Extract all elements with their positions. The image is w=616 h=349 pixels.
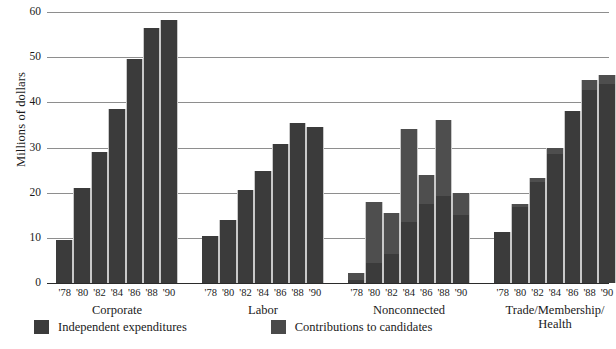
x-axis-tick-90: '90 (160, 288, 177, 299)
bars-container (56, 12, 178, 283)
legend-item-independent-expenditures[interactable]: Independent expenditures (34, 320, 187, 334)
bar-segment-contributions-to-candidates (565, 111, 580, 283)
bar-group-corporate: '78'80'82'84'86'88'90Corporate (56, 12, 178, 283)
plot-area: 0102030405060'78'80'82'84'86'88'90Corpor… (47, 12, 609, 283)
bar-segment-contributions-to-candidates (366, 263, 381, 283)
bar-group-labor: '78'80'82'84'86'88'90Labor (202, 12, 324, 283)
bars-container (202, 12, 324, 283)
bar[interactable] (91, 152, 108, 283)
bar-segment-contributions-to-candidates (599, 84, 614, 283)
bar-segment-contributions-to-candidates (453, 215, 468, 283)
x-axis-tick-84: '84 (254, 288, 271, 299)
bar-segment-contributions-to-candidates (582, 90, 597, 283)
y-axis-tick-40: 40 (7, 96, 41, 108)
y-axis-tick-10: 10 (7, 232, 41, 244)
bar[interactable] (126, 59, 143, 283)
bar-segment-contributions-to-candidates (290, 123, 305, 283)
bar[interactable] (365, 202, 382, 283)
bar[interactable] (219, 220, 236, 283)
x-axis-tick-78: '78 (202, 288, 219, 299)
group-label: Labor (202, 303, 324, 317)
bar[interactable] (272, 144, 289, 283)
bar-segment-contributions-to-candidates (109, 109, 124, 283)
x-axis-tick-86: '86 (272, 288, 289, 299)
bar[interactable] (564, 111, 581, 283)
bar[interactable] (435, 120, 452, 283)
bar[interactable] (202, 236, 219, 283)
bar[interactable] (418, 175, 435, 283)
bar[interactable] (511, 204, 528, 283)
x-axis-tick-82: '82 (529, 288, 546, 299)
x-axis-tick-88: '88 (581, 288, 598, 299)
bar-segment-contributions-to-candidates (144, 28, 159, 283)
legend-item-contributions-to-candidates[interactable]: Contributions to candidates (271, 320, 432, 334)
bar[interactable] (598, 75, 615, 283)
legend-swatch-icon (271, 320, 286, 334)
bar-group-nonconnected: '78'80'82'84'86'88'90Nonconnected (348, 12, 470, 283)
bar-segment-independent-expenditures (348, 273, 364, 281)
legend-swatch-icon (34, 320, 49, 334)
x-axis-tick-84: '84 (546, 288, 563, 299)
bar[interactable] (306, 127, 323, 283)
bar-segment-independent-expenditures (419, 175, 434, 204)
bar-segment-contributions-to-candidates (436, 196, 451, 283)
bar[interactable] (529, 178, 546, 283)
bar-segment-contributions-to-candidates (255, 171, 270, 283)
y-axis-tick-50: 50 (7, 51, 41, 63)
bar[interactable] (348, 273, 365, 283)
bar[interactable] (237, 190, 254, 283)
bar-segment-contributions-to-candidates (401, 222, 416, 283)
chart-legend: Independent expendituresContributions to… (34, 320, 594, 334)
x-axis-tick-90: '90 (452, 288, 469, 299)
group-label: Nonconnected (348, 303, 470, 317)
bar-segment-independent-expenditures (547, 148, 562, 155)
bar[interactable] (581, 80, 598, 283)
bar[interactable] (494, 232, 511, 283)
bars-container (348, 12, 470, 283)
bar-segment-contributions-to-candidates (92, 152, 107, 283)
bar-segment-contributions-to-candidates (238, 190, 253, 283)
y-axis-tick-30: 30 (7, 142, 41, 154)
bar[interactable] (160, 20, 177, 283)
bar[interactable] (289, 123, 306, 283)
bar-segment-independent-expenditures (582, 80, 597, 90)
bar-segment-contributions-to-candidates (273, 144, 288, 283)
x-axis-ticks: '78'80'82'84'86'88'90 (56, 288, 178, 299)
bar[interactable] (254, 171, 271, 283)
bar[interactable] (56, 240, 73, 283)
bar-segment-contributions-to-candidates (220, 220, 235, 283)
bar-segment-contributions-to-candidates (307, 127, 322, 283)
bar[interactable] (383, 213, 400, 283)
x-axis-tick-80: '80 (511, 288, 528, 299)
x-axis-tick-88: '88 (289, 288, 306, 299)
x-axis-tick-82: '82 (383, 288, 400, 299)
x-axis-tick-88: '88 (143, 288, 160, 299)
bar[interactable] (73, 188, 90, 283)
bar-segment-contributions-to-candidates (56, 240, 72, 283)
bar-segment-independent-expenditures (436, 120, 451, 196)
bar[interactable] (452, 193, 469, 283)
bar-segment-independent-expenditures (366, 202, 381, 263)
y-axis-tick-20: 20 (7, 187, 41, 199)
bar-segment-independent-expenditures (453, 193, 468, 216)
x-axis-tick-80: '80 (365, 288, 382, 299)
x-axis-tick-90: '90 (598, 288, 615, 299)
x-axis-tick-84: '84 (108, 288, 125, 299)
bar-segment-independent-expenditures (401, 129, 416, 222)
x-axis-ticks: '78'80'82'84'86'88'90 (348, 288, 470, 299)
bar-segment-contributions-to-candidates (494, 232, 510, 283)
bars-container (494, 12, 616, 283)
bar[interactable] (108, 109, 125, 283)
group-label-line: Labor (202, 303, 324, 317)
x-axis-ticks: '78'80'82'84'86'88'90 (494, 288, 616, 299)
bar[interactable] (546, 148, 563, 283)
legend-label: Contributions to candidates (295, 321, 432, 334)
bar[interactable] (400, 129, 417, 283)
bar-segment-contributions-to-candidates (419, 204, 434, 283)
x-axis-tick-86: '86 (564, 288, 581, 299)
bar[interactable] (143, 28, 160, 283)
bar-segment-contributions-to-candidates (547, 154, 562, 283)
x-axis-tick-86: '86 (418, 288, 435, 299)
x-axis-tick-78: '78 (348, 288, 365, 299)
